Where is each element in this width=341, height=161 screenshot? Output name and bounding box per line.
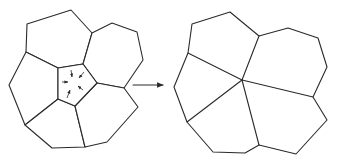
before-cell-network — [9, 10, 143, 148]
diagram-canvas — [0, 0, 341, 161]
after-cell-network — [174, 12, 327, 154]
after-outline — [174, 12, 327, 154]
